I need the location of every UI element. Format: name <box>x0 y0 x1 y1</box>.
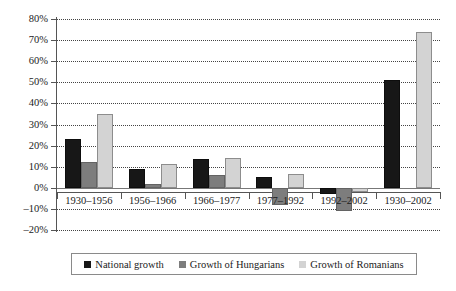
bar <box>145 184 161 188</box>
legend-label-growth-of-hungarians: Growth of Hungarians <box>190 259 284 270</box>
x-axis-category-label: 1930–1956 <box>57 196 121 207</box>
legend-item-growth-of-romanians: Growth of Romanians <box>299 259 403 270</box>
legend-label-national-growth: National growth <box>95 259 164 270</box>
bar <box>320 188 336 194</box>
bar <box>384 80 400 188</box>
gridline <box>57 61 440 62</box>
bar <box>256 177 272 188</box>
bar <box>193 159 209 187</box>
legend-swatch-icon-growth-of-romanians <box>299 261 306 268</box>
y-axis-tick-label: –20% <box>2 225 48 236</box>
bar <box>161 164 177 188</box>
x-axis-category-label: 1977–1992 <box>249 196 313 207</box>
gridline <box>57 146 440 147</box>
x-axis-category-label: 1992–2002 <box>312 196 376 207</box>
gridline <box>57 40 440 41</box>
x-axis-category-label: 1966–1977 <box>185 196 249 207</box>
y-axis-tick-label: 10% <box>2 161 48 172</box>
bar <box>81 162 97 187</box>
gridline <box>57 19 440 20</box>
y-axis-tick-label: 40% <box>2 98 48 109</box>
gridline <box>57 167 440 168</box>
y-axis-tick-label: –10% <box>2 204 48 215</box>
y-axis-tick-label: 30% <box>2 119 48 130</box>
chart-legend: National growth Growth of Hungarians Gro… <box>71 253 417 275</box>
bar <box>65 139 81 188</box>
legend-item-national-growth: National growth <box>84 259 164 270</box>
bar <box>129 169 145 188</box>
y-axis-tick-label: 50% <box>2 77 48 88</box>
bar <box>209 175 225 188</box>
y-axis-tick-label: 80% <box>2 14 48 25</box>
legend-label-growth-of-romanians: Growth of Romanians <box>310 259 403 270</box>
gridline <box>57 188 440 189</box>
bar-chart: 80%70%60%50%40%30%20%10%0%–10%–20% 1930–… <box>0 0 456 291</box>
legend-swatch-icon-national-growth <box>84 261 91 268</box>
gridline <box>57 82 440 83</box>
legend-item-growth-of-hungarians: Growth of Hungarians <box>179 259 284 270</box>
y-axis-tick-label: 60% <box>2 56 48 67</box>
bar <box>288 174 304 188</box>
gridline <box>57 230 440 231</box>
bar <box>97 114 113 188</box>
gridline <box>57 209 440 210</box>
x-axis-tick <box>440 192 441 199</box>
bar <box>416 32 432 188</box>
bar <box>352 188 368 192</box>
legend-swatch-icon-growth-of-hungarians <box>179 261 186 268</box>
x-axis-category-label: 1956–1966 <box>121 196 185 207</box>
y-axis-tick-label: 0% <box>2 183 48 194</box>
x-axis-category-label: 1930–2002 <box>376 196 440 207</box>
y-axis-tick-label: 70% <box>2 35 48 46</box>
gridline <box>57 103 440 104</box>
gridline <box>57 125 440 126</box>
y-axis-tick-label: 20% <box>2 140 48 151</box>
bar <box>225 158 241 188</box>
